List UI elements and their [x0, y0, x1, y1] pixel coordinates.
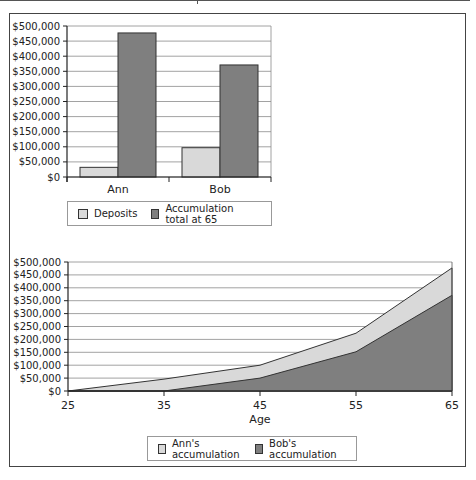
x-tick-label: 45: [253, 399, 267, 412]
legend-swatch-dark: [255, 444, 263, 454]
y-tick-label: $150,000: [13, 347, 61, 358]
x-tick-label: 65: [445, 399, 459, 412]
y-tick-label: $500,000: [13, 257, 61, 268]
x-tick-label: 35: [157, 399, 171, 412]
legend-item-ann: Ann's accumulation: [158, 438, 245, 460]
y-tick-label: $250,000: [13, 321, 61, 332]
y-tick-label: $0: [48, 386, 61, 397]
area-chart: $0$50,000$100,000$150,000$200,000$250,00…: [0, 0, 476, 430]
y-tick-label: $400,000: [13, 282, 61, 293]
y-tick-label: $300,000: [13, 308, 61, 319]
x-axis-title: Age: [249, 413, 271, 426]
y-tick-label: $100,000: [13, 360, 61, 371]
y-tick-label: $50,000: [20, 373, 61, 384]
area-chart-legend: Ann's accumulation Bob's accumulation: [147, 436, 357, 461]
y-tick-label: $200,000: [13, 334, 61, 345]
x-tick-label: 55: [349, 399, 363, 412]
x-tick-label: 25: [61, 399, 75, 412]
y-tick-label: $350,000: [13, 295, 61, 306]
y-tick-label: $450,000: [13, 269, 61, 280]
legend-swatch-light: [158, 444, 166, 454]
legend-item-bob: Bob's accumulation: [255, 438, 342, 460]
legend-label: Ann's accumulation: [172, 438, 245, 460]
legend-label: Bob's accumulation: [269, 438, 342, 460]
